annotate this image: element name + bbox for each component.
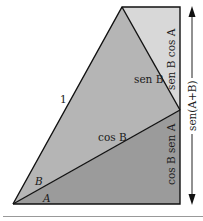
sen-a-plus-b-label: sen(A+B) [186, 80, 198, 131]
arrow-down-icon [189, 194, 196, 205]
sine-sum-diagram: 1 sen B cos B B A sen B cos A cos B sen … [0, 0, 203, 221]
hypotenuse-label: 1 [60, 93, 67, 105]
sen-b-label: sen B [134, 73, 164, 85]
sen-b-cos-a-label: sen B cos A [165, 28, 177, 90]
arrow-up-icon [189, 6, 196, 17]
angle-a-label: A [42, 192, 51, 204]
cos-b-label: cos B [98, 131, 127, 143]
sen-b-text: sen B [134, 73, 164, 85]
angle-b-label: B [34, 175, 43, 187]
cos-b-sen-a-label: cos B sen A [165, 123, 177, 185]
